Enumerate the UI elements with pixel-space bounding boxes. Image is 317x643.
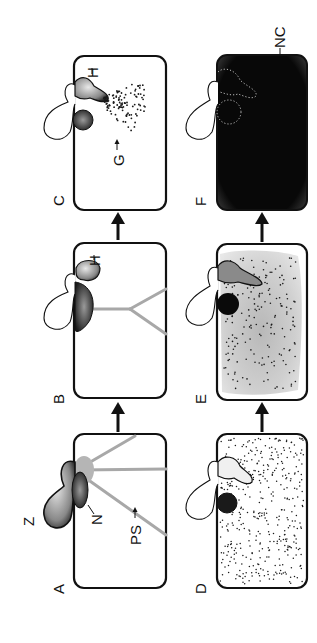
panel-d: D — [186, 434, 307, 594]
label-h-b: H — [86, 255, 103, 266]
label-g: G — [110, 154, 127, 166]
arrow-a-to-b — [111, 402, 125, 432]
label-nc: NC — [271, 26, 288, 48]
label-h-c: H — [84, 67, 101, 78]
nucleus — [73, 110, 93, 130]
nucleus — [217, 493, 237, 513]
nucleus — [72, 472, 88, 508]
label-panel-f: F — [192, 197, 209, 206]
panel-c: C H G — [44, 56, 166, 210]
panel-b: B H — [44, 243, 166, 404]
zoospore-empty — [186, 81, 218, 139]
figure-canvas: A Z N PS B H — [0, 0, 317, 643]
zoospore-empty — [44, 274, 75, 329]
label-ps: PS — [127, 525, 144, 545]
zoospore — [44, 461, 75, 527]
zoospore-empty — [44, 84, 75, 139]
zoospore-empty — [186, 461, 218, 519]
panel-f: F NC — [186, 26, 307, 210]
label-panel-e: E — [192, 394, 209, 404]
arrow-d-to-e — [255, 402, 269, 432]
panel-e: E — [186, 244, 307, 404]
nucleus — [217, 293, 239, 315]
label-panel-a: A — [50, 584, 67, 594]
label-panel-d: D — [192, 583, 209, 594]
label-n: N — [88, 514, 105, 525]
zoospore-empty — [186, 267, 218, 325]
panel-a: A Z N PS — [20, 434, 166, 594]
arrow-b-to-c — [111, 212, 125, 240]
label-panel-b: B — [50, 394, 67, 404]
label-z: Z — [20, 517, 37, 526]
host-cell-f-necrotic — [217, 55, 307, 210]
arrow-e-to-f — [255, 212, 269, 242]
label-panel-c: C — [50, 195, 67, 206]
